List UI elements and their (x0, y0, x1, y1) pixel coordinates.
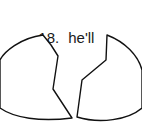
left-puzzle-piece[interactable] (0, 35, 72, 120)
puzzle-pieces (0, 0, 142, 131)
right-puzzle-piece[interactable] (77, 35, 142, 120)
